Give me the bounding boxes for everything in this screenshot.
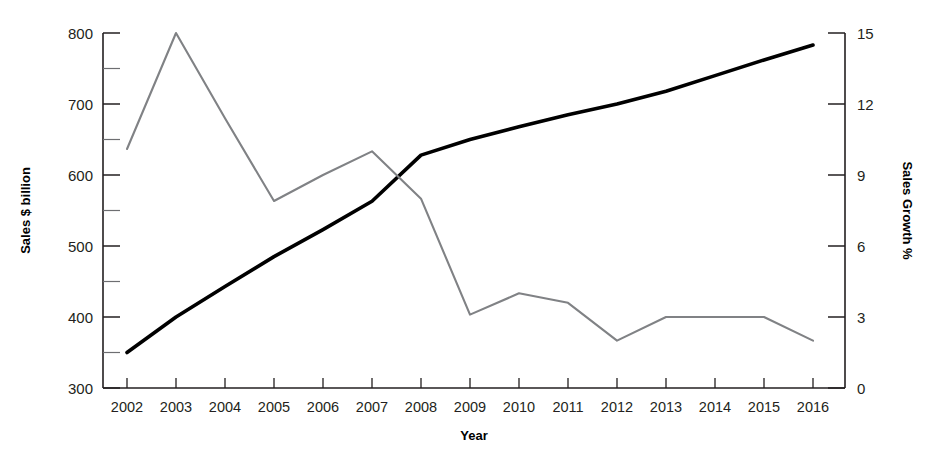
- x-axis-tick-label: 2011: [552, 399, 583, 415]
- x-axis-tick-label: 2015: [748, 399, 780, 415]
- left-axis-tick-label: 600: [68, 167, 93, 184]
- series-line-sales-growth: [127, 33, 813, 341]
- series-line-sales: [127, 45, 813, 352]
- x-axis-tick-label: 2007: [356, 399, 388, 415]
- left-axis-tick-label: 500: [68, 238, 93, 255]
- chart-container: 300400500600700800 03691215 200220032004…: [0, 0, 934, 459]
- left-axis-tick-label: 300: [68, 380, 93, 397]
- x-axis-tick-label: 2010: [503, 399, 535, 415]
- right-axis-tick-label: 9: [857, 167, 865, 184]
- right-axis-tick-label: 15: [857, 25, 874, 42]
- x-axis-title: Year: [460, 428, 487, 443]
- left-axis-title: Sales $ billion: [18, 167, 33, 254]
- x-axis-tick-label: 2005: [258, 399, 290, 415]
- right-axis: 03691215: [828, 25, 874, 397]
- dual-axis-line-chart: 300400500600700800 03691215 200220032004…: [0, 0, 934, 459]
- right-axis-tick-label: 3: [857, 309, 865, 326]
- left-axis-tick-label: 700: [68, 96, 93, 113]
- x-axis-tick-label: 2002: [111, 399, 143, 415]
- left-axis-tick-label: 400: [68, 309, 93, 326]
- x-axis-tick-label: 2009: [454, 399, 486, 415]
- x-axis-tick-label: 2004: [209, 399, 241, 415]
- x-axis-tick-label: 2008: [405, 399, 437, 415]
- x-axis-tick-label: 2003: [160, 399, 192, 415]
- x-axis-tick-label: 2012: [601, 399, 633, 415]
- x-axis-tick-label: 2013: [650, 399, 682, 415]
- plot-series-group: [127, 33, 813, 353]
- left-axis: 300400500600700800: [68, 25, 120, 397]
- bottom-axis: 2002200320042005200620072008200920102011…: [103, 378, 845, 415]
- right-axis-title: Sales Growth %: [900, 161, 915, 260]
- left-axis-tick-label: 800: [68, 25, 93, 42]
- right-axis-tick-label: 0: [857, 380, 865, 397]
- x-axis-tick-label: 2006: [307, 399, 339, 415]
- right-axis-tick-label: 12: [857, 96, 874, 113]
- right-axis-tick-label: 6: [857, 238, 865, 255]
- x-axis-tick-label: 2016: [797, 399, 829, 415]
- x-axis-tick-label: 2014: [699, 399, 731, 415]
